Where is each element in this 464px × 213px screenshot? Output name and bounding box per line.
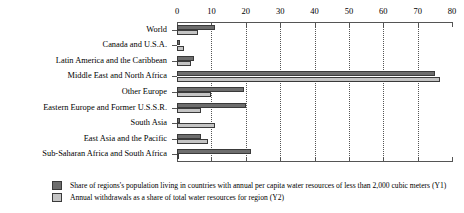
x-tick-label: 30 <box>276 6 285 16</box>
category-tick <box>172 61 177 62</box>
x-tick-label: 0 <box>175 6 179 16</box>
category-label: Eastern Europe and Former U.S.S.R. <box>43 103 167 111</box>
category-label: Other Europe <box>122 88 167 96</box>
category-label: Middle East and North Africa <box>67 72 167 80</box>
x-tick-label: 10 <box>207 6 216 16</box>
legend-item[interactable]: Annual withdrawals as a share of total w… <box>52 192 446 203</box>
legend-label: Annual withdrawals as a share of total w… <box>70 194 284 202</box>
chart-legend: Share of regions's population living in … <box>52 180 446 204</box>
category-tick <box>172 154 177 155</box>
bar-y1 <box>177 149 251 154</box>
category-label: World <box>146 26 167 34</box>
bar-y2 <box>177 46 184 51</box>
category-tick <box>172 30 177 31</box>
category-tick <box>172 123 177 124</box>
category-tick <box>172 92 177 93</box>
category-label: South Asia <box>130 119 167 127</box>
bar-y2 <box>177 123 215 128</box>
x-tick-label: 20 <box>242 6 251 16</box>
bars-container <box>177 22 452 162</box>
category-tick <box>172 76 177 77</box>
x-tick-label: 80 <box>448 6 457 16</box>
x-tick-mark <box>452 157 453 162</box>
legend-label: Share of regions's population living in … <box>70 182 446 190</box>
category-label: Sub-Saharan Africa and South Africa <box>42 150 167 158</box>
category-tick <box>172 139 177 140</box>
x-tick-label: 40 <box>310 6 319 16</box>
bar-y2 <box>177 139 208 144</box>
x-tick-label: 50 <box>345 6 354 16</box>
water-resources-bar-chart: 01020304050607080 WorldCanada and U.S.A.… <box>0 0 464 213</box>
category-label: East Asia and the Pacific <box>84 134 167 142</box>
category-tick <box>172 108 177 109</box>
bar-y2 <box>177 61 191 66</box>
bar-y2 <box>177 92 211 97</box>
x-tick-label: 60 <box>379 6 388 16</box>
x-tick-mark <box>452 22 453 27</box>
legend-swatch-icon <box>52 193 62 202</box>
category-axis-labels: WorldCanada and U.S.A.Latin America and … <box>0 22 173 162</box>
legend-swatch-icon <box>52 181 62 190</box>
category-label: Canada and U.S.A. <box>103 41 167 49</box>
x-tick-label: 70 <box>413 6 422 16</box>
legend-item[interactable]: Share of regions's population living in … <box>52 180 446 191</box>
bar-y2 <box>177 77 440 82</box>
bar-y2 <box>177 108 201 113</box>
bar-y2 <box>177 154 179 159</box>
category-tick <box>172 45 177 46</box>
bar-y2 <box>177 30 198 35</box>
category-label: Latin America and the Caribbean <box>56 57 167 65</box>
